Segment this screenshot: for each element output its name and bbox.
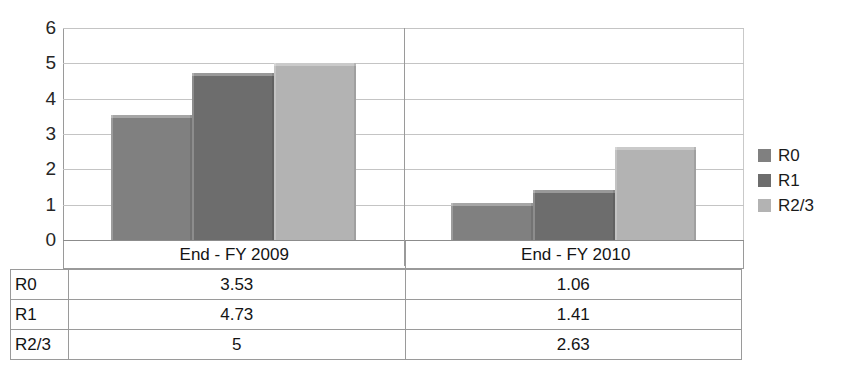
bar-face xyxy=(111,115,193,240)
bar-R1-cat1 xyxy=(533,190,615,240)
bar-hl-top xyxy=(192,73,274,76)
bar-hl-left xyxy=(111,115,113,240)
data-table: R03.531.06R14.731.41R2/352.63 xyxy=(10,269,742,360)
bar-hl-top xyxy=(533,190,615,193)
bar-sh-right xyxy=(354,63,356,240)
table-cell: 3.53 xyxy=(69,270,406,300)
bar-face xyxy=(192,73,274,240)
table-cell: 2.63 xyxy=(405,330,742,360)
table-row: R03.531.06 xyxy=(11,270,742,300)
table-cell: 1.41 xyxy=(405,300,742,330)
legend-label: R0 xyxy=(778,146,800,166)
bar-hl-left xyxy=(274,63,276,240)
bar-hl-left xyxy=(451,203,453,240)
y-axis-tick-2: 2 xyxy=(12,159,56,178)
plot-area xyxy=(63,28,744,240)
bar-face xyxy=(615,147,697,240)
bar-R1-cat0 xyxy=(192,73,274,240)
chart-legend: R0R1R2/3 xyxy=(758,143,844,218)
legend-swatch-icon xyxy=(758,149,771,162)
table-cell: 4.73 xyxy=(69,300,406,330)
bar-sh-right xyxy=(694,147,696,240)
legend-item-R1[interactable]: R1 xyxy=(758,168,844,193)
bar-hl-top xyxy=(111,115,193,118)
bar-face xyxy=(451,203,533,240)
legend-label: R2/3 xyxy=(778,196,814,216)
bar-chart-figure: 6543210 End - FY 2009End - FY 2010 R0R1R… xyxy=(0,0,850,388)
legend-item-R2-3[interactable]: R2/3 xyxy=(758,193,844,218)
y-axis-tick-5: 5 xyxy=(12,53,56,72)
category-label-1: End - FY 2010 xyxy=(405,241,747,268)
table-cell: 1.06 xyxy=(405,270,742,300)
category-label-0: End - FY 2009 xyxy=(64,241,405,268)
bar-hl-left xyxy=(192,73,194,240)
y-axis-tick-1: 1 xyxy=(12,195,56,214)
y-axis-tick-6: 6 xyxy=(12,18,56,37)
category-divider xyxy=(404,28,405,266)
bar-hl-top xyxy=(451,203,533,206)
table-row: R2/352.63 xyxy=(11,330,742,360)
table-row-label: R0 xyxy=(11,270,69,300)
y-axis-tick-4: 4 xyxy=(12,89,56,108)
bar-R0-cat0 xyxy=(111,115,193,240)
bar-hl-top xyxy=(274,63,356,66)
legend-swatch-icon xyxy=(758,199,771,212)
table-cell: 5 xyxy=(69,330,406,360)
category-axis-strip: End - FY 2009End - FY 2010 xyxy=(63,241,744,269)
bar-face xyxy=(274,63,356,240)
table-row: R14.731.41 xyxy=(11,300,742,330)
bar-R2-3-cat1 xyxy=(615,147,697,240)
bar-face xyxy=(533,190,615,240)
legend-label: R1 xyxy=(778,171,800,191)
table-row-label: R1 xyxy=(11,300,69,330)
bar-R0-cat1 xyxy=(451,203,533,240)
legend-item-R0[interactable]: R0 xyxy=(758,143,844,168)
y-axis-tick-0: 0 xyxy=(12,230,56,249)
bar-hl-left xyxy=(533,190,535,240)
table-row-label: R2/3 xyxy=(11,330,69,360)
legend-swatch-icon xyxy=(758,174,771,187)
bar-hl-top xyxy=(615,147,697,150)
y-axis-tick-3: 3 xyxy=(12,124,56,143)
bar-R2-3-cat0 xyxy=(274,63,356,240)
bar-hl-left xyxy=(615,147,617,240)
y-axis-tick-labels: 6543210 xyxy=(0,28,56,240)
